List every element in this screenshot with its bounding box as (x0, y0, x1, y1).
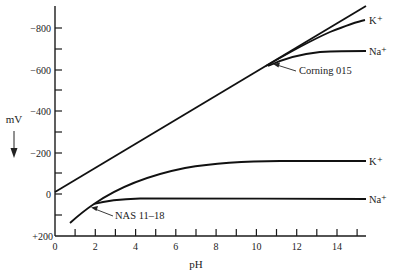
svg-text:−600: −600 (30, 65, 51, 76)
nas-na-curve (94, 199, 366, 205)
svg-text:12: 12 (292, 241, 302, 252)
svg-text:0: 0 (46, 189, 51, 200)
na-upper-label: Na⁺ (369, 46, 387, 57)
x-tick-labels: 0 2 4 6 8 10 12 14 (53, 241, 343, 252)
nas-label: NAS 11–18 (115, 210, 165, 221)
y-axis-label: mV (6, 113, 23, 125)
svg-text:−800: −800 (30, 23, 51, 34)
nas-leader-arrow (91, 206, 113, 216)
corning-na-curve (268, 51, 366, 66)
k-upper-label: K⁺ (369, 15, 383, 26)
na-lower-label: Na⁺ (369, 194, 387, 205)
svg-text:8: 8 (214, 241, 219, 252)
svg-text:6: 6 (173, 241, 178, 252)
svg-text:−400: −400 (30, 106, 51, 117)
svg-text:−200: −200 (30, 148, 51, 159)
corning-leader-arrow (273, 63, 296, 72)
svg-text:14: 14 (332, 241, 342, 252)
svg-text:+200: +200 (32, 231, 53, 242)
svg-text:10: 10 (251, 241, 261, 252)
x-ticks (75, 229, 357, 236)
svg-text:2: 2 (93, 241, 98, 252)
k-lower-label: K⁺ (369, 156, 383, 167)
x-axis-label: pH (189, 258, 203, 270)
chart-figure: −800 −600 −400 −200 0 +200 0 2 4 6 8 10 … (0, 0, 395, 275)
y-tick-labels: −800 −600 −400 −200 0 +200 (30, 23, 53, 243)
corning-label: Corning 015 (299, 65, 352, 76)
svg-text:0: 0 (53, 241, 58, 252)
corning-k-curve (266, 20, 365, 66)
y-major-ticks (55, 28, 62, 194)
down-arrow-icon (11, 131, 18, 158)
svg-text:4: 4 (133, 241, 138, 252)
